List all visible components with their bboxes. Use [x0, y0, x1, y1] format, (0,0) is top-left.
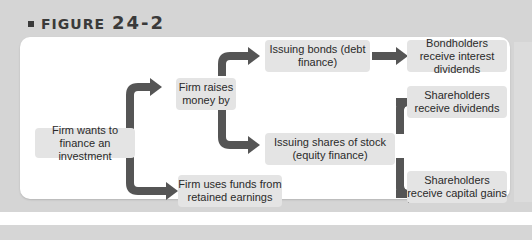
arrowhead-retained — [166, 182, 178, 200]
node-shares: Issuing shares of stock (equity finance) — [265, 133, 395, 165]
node-bonds: Issuing bonds (debt finance) — [265, 40, 370, 72]
node-bondholders-text: Bondholders receive interest dividends — [407, 37, 507, 76]
node-share-gains: Shareholders receive capital gains — [407, 171, 507, 203]
node-start: Firm wants to finance an investment — [35, 128, 135, 158]
node-share-gains-text: Shareholders receive capital gains — [407, 174, 507, 200]
arrow-start-to-retained — [130, 150, 168, 191]
node-retained: Firm uses funds from retained earnings — [178, 175, 282, 207]
node-share-dividends: Shareholders receive dividends — [407, 86, 507, 118]
node-shares-text: Issuing shares of stock (equity finance) — [265, 136, 395, 162]
node-raises-text: Firm raises money by — [176, 81, 236, 107]
arrowhead-shares — [248, 136, 260, 154]
arrow-raises-to-bonds — [222, 56, 250, 76]
node-raises: Firm raises money by — [176, 78, 236, 110]
node-start-text: Firm wants to finance an investment — [35, 124, 135, 163]
arrowhead-bonds — [248, 47, 260, 65]
node-retained-text: Firm uses funds from retained earnings — [178, 178, 282, 204]
node-bonds-text: Issuing bonds (debt finance) — [265, 43, 370, 69]
arrowhead-raises — [150, 78, 162, 96]
node-share-dividends-text: Shareholders receive dividends — [407, 89, 507, 115]
node-bondholders: Bondholders receive interest dividends — [407, 40, 507, 72]
